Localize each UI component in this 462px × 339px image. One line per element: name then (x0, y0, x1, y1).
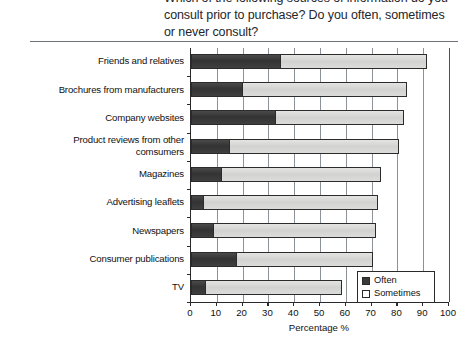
y-axis-label-line: Advertising leaflets (14, 196, 184, 208)
chart-bar-row (191, 133, 448, 161)
bar-segment-sometimes (205, 280, 342, 295)
caption-clipped-line: Which of the following sources of inform… (164, 0, 456, 7)
stacked-bar (191, 252, 373, 267)
stacked-bar (191, 82, 407, 97)
bar-segment-sometimes (242, 82, 407, 97)
chart-bar-row (191, 104, 448, 132)
x-axis-tick (293, 302, 294, 306)
gridline (449, 48, 450, 302)
stacked-bar (191, 280, 342, 295)
x-axis-tick (319, 302, 320, 306)
bar-segment-often (191, 280, 206, 295)
chart-bar-row (191, 161, 448, 189)
chart-bar-row (191, 189, 448, 217)
stacked-bar (191, 110, 404, 125)
stacked-bar (191, 139, 399, 154)
stacked-bar (191, 223, 376, 238)
chart-legend: Often Sometimes (357, 271, 435, 303)
x-axis-tick-label: 30 (262, 307, 273, 318)
x-axis-tick-label: 80 (391, 307, 402, 318)
y-axis-label-line: Friends and relatives (14, 55, 184, 67)
x-axis-tick (267, 302, 268, 306)
chart-bar-row (191, 48, 448, 76)
x-axis-tick (345, 302, 346, 306)
x-axis-tick-label: 60 (339, 307, 350, 318)
y-axis-label-line: Company websites (14, 112, 184, 124)
x-axis-tick-label: 0 (187, 307, 192, 318)
legend-swatch-sometimes-icon (362, 290, 370, 298)
y-axis-label-line: Consumer publications (14, 253, 184, 265)
bar-segment-often (191, 82, 243, 97)
legend-label-often: Often (374, 275, 397, 286)
y-axis-label: TV (14, 281, 184, 293)
y-axis-label-line: comsumers (14, 146, 184, 158)
y-axis-label: Advertising leaflets (14, 196, 184, 208)
y-axis-label-line: Magazines (14, 168, 184, 180)
bar-segment-sometimes (229, 139, 399, 154)
y-axis-label-line: Brochures from manufacturers (14, 84, 184, 96)
horizontal-rule (30, 41, 458, 42)
bar-segment-sometimes (275, 110, 404, 125)
legend-swatch-often-icon (362, 277, 370, 285)
x-axis-tick (242, 302, 243, 306)
y-axis-label: Friends and relatives (14, 55, 184, 67)
chart-bar-row (191, 76, 448, 104)
bar-segment-sometimes (236, 252, 373, 267)
stacked-bar (191, 195, 378, 210)
y-axis-label-line: TV (14, 281, 184, 293)
x-axis-title: Percentage % (190, 322, 448, 333)
x-axis-tick-label: 20 (236, 307, 247, 318)
x-axis-tick (422, 302, 423, 306)
x-axis-tick-label: 50 (314, 307, 325, 318)
chart-bar-row (191, 246, 448, 274)
stacked-bar (191, 54, 427, 69)
caption-line-1: consult prior to purchase? Do you often,… (164, 7, 456, 24)
bar-segment-sometimes (203, 195, 378, 210)
bar-segment-sometimes (280, 54, 427, 69)
legend-item-sometimes: Sometimes (362, 288, 430, 299)
x-axis-tick-label: 70 (365, 307, 376, 318)
y-axis-label: Product reviews from othercomsumers (14, 134, 184, 157)
bar-segment-sometimes (213, 223, 376, 238)
y-axis-label-line: Newspapers (14, 225, 184, 237)
y-axis-label: Magazines (14, 168, 184, 180)
bar-segment-often (191, 252, 237, 267)
x-axis-tick (190, 302, 191, 306)
stacked-bar (191, 167, 381, 182)
x-axis-tick (216, 302, 217, 306)
chart-question-caption: Which of the following sources of inform… (164, 0, 456, 40)
y-axis-label: Brochures from manufacturers (14, 84, 184, 96)
y-axis-label: Consumer publications (14, 253, 184, 265)
bar-segment-often (191, 139, 230, 154)
legend-label-sometimes: Sometimes (374, 288, 421, 299)
y-axis-label-line: Product reviews from other (14, 134, 184, 146)
x-axis-tick (371, 302, 372, 306)
bar-segment-often (191, 223, 214, 238)
y-axis-label: Company websites (14, 112, 184, 124)
legend-item-often: Often (362, 275, 430, 286)
y-axis-label: Newspapers (14, 225, 184, 237)
bar-segment-sometimes (221, 167, 381, 182)
caption-line-2: or never consult? (164, 24, 456, 41)
chart-bar-row (191, 217, 448, 245)
x-axis-tick (396, 302, 397, 306)
bar-segment-often (191, 167, 222, 182)
x-axis-tick (448, 302, 449, 306)
bar-segment-often (191, 54, 281, 69)
x-axis-tick-label: 10 (210, 307, 221, 318)
x-axis-tick-label: 100 (440, 307, 456, 318)
x-axis-tick-label: 40 (288, 307, 299, 318)
chart-plot-area (190, 48, 448, 302)
x-axis-tick-label: 90 (417, 307, 428, 318)
bar-segment-often (191, 110, 276, 125)
